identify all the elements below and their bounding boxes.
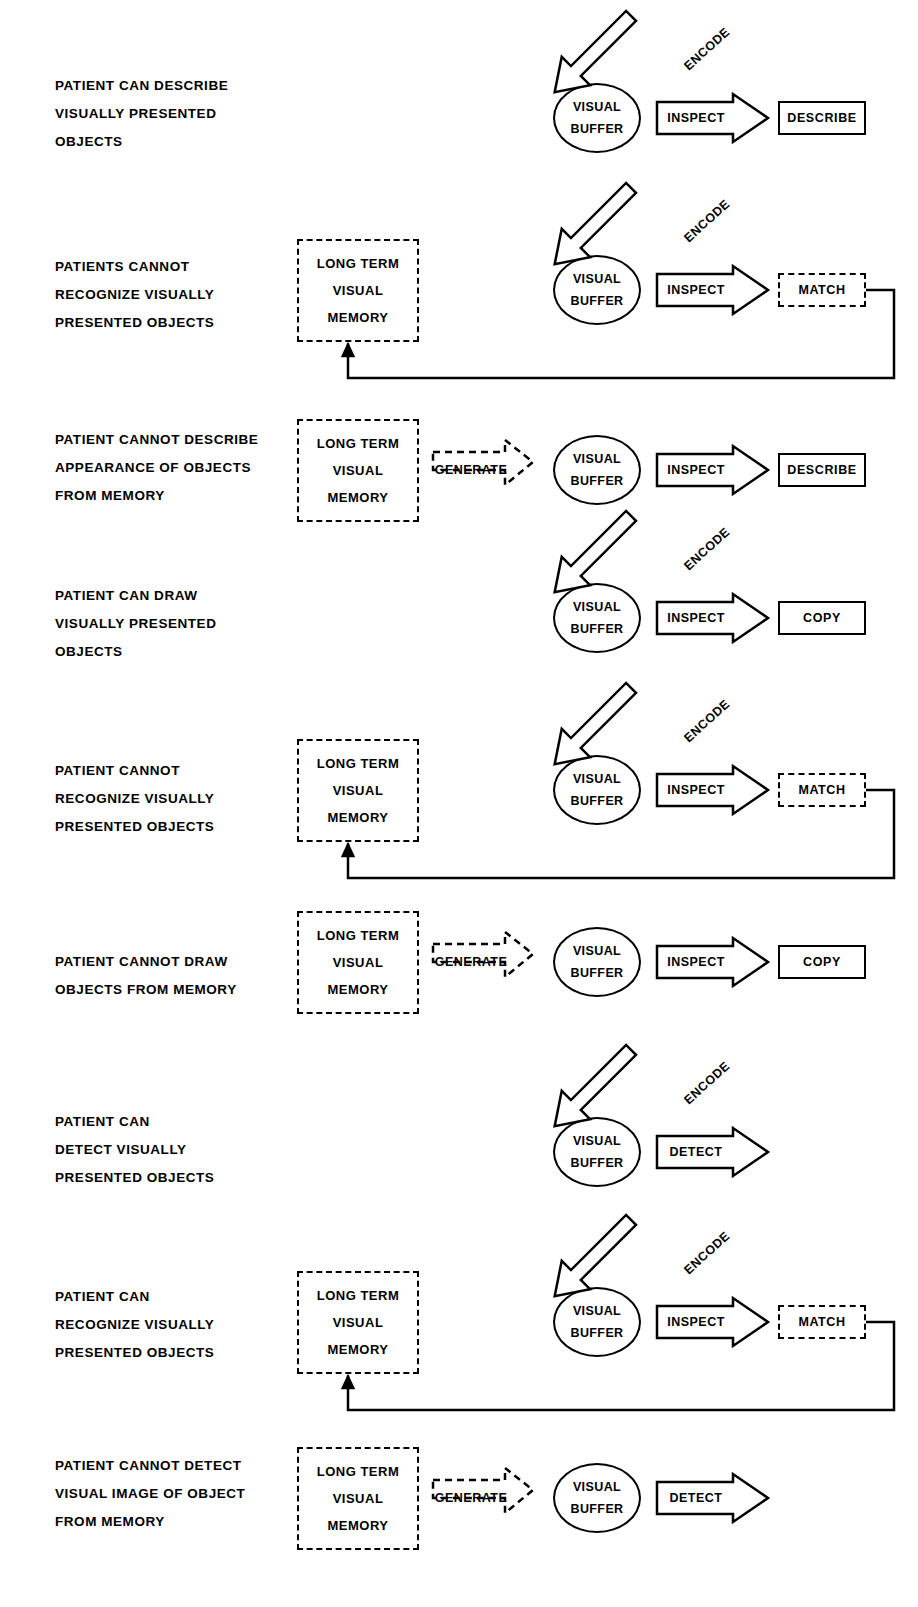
visual-buffer-label-line: VISUAL [573,1476,621,1498]
ltm-label-line: VISUAL [333,1485,384,1512]
description-line: VISUAL IMAGE OF OBJECT [55,1480,245,1508]
long-term-visual-memory-box: LONG TERMVISUALMEMORY [297,1447,419,1550]
visual-buffer-model-diagram: PATIENT CAN DESCRIBEVISUALLY PRESENTEDOB… [0,0,918,1607]
feedback-loop [0,0,900,1418]
process-arrow-label: DETECT [655,1487,737,1509]
visual-buffer: VISUALBUFFER [553,1463,641,1533]
visual-buffer-label-line: BUFFER [570,1498,623,1520]
ltm-label-line: MEMORY [327,1512,388,1539]
description-line: PATIENT CANNOT DETECT [55,1452,245,1480]
row-description: PATIENT CANNOT DETECTVISUAL IMAGE OF OBJ… [55,1452,245,1536]
ltm-label-line: LONG TERM [317,1458,400,1485]
description-line: FROM MEMORY [55,1508,245,1536]
generate-label: GENERATE [431,1487,511,1509]
